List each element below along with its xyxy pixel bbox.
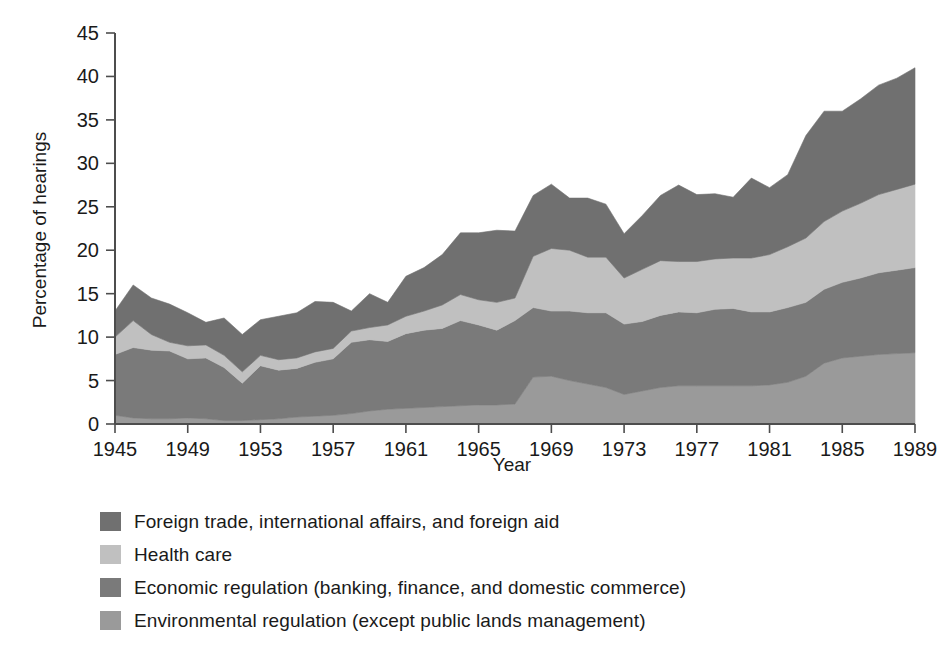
area-bands-group <box>115 68 915 424</box>
y-tick-label: 25 <box>77 196 99 218</box>
y-tick-label: 30 <box>77 152 99 174</box>
stacked-area-chart: 0510152025303540451945194919531957196119… <box>0 0 950 500</box>
x-tick-label: 1969 <box>529 438 574 460</box>
legend-item-label: Environmental regulation (except public … <box>134 610 646 632</box>
x-axis-title: Year <box>493 454 532 475</box>
legend-swatch-icon <box>100 611 121 630</box>
x-tick-label: 1953 <box>238 438 283 460</box>
y-tick-label: 40 <box>77 65 99 87</box>
y-tick-label: 20 <box>77 239 99 261</box>
x-tick-label: 1945 <box>93 438 138 460</box>
y-axis-title: Percentage of hearings <box>29 132 50 328</box>
chart-legend: Foreign trade, international affairs, an… <box>100 505 930 637</box>
legend-item-label: Economic regulation (banking, finance, a… <box>134 577 686 599</box>
x-tick-label: 1977 <box>675 438 720 460</box>
legend-item[interactable]: Economic regulation (banking, finance, a… <box>100 571 930 604</box>
legend-swatch-icon <box>100 512 121 531</box>
y-tick-label: 45 <box>77 22 99 44</box>
legend-item[interactable]: Foreign trade, international affairs, an… <box>100 505 930 538</box>
y-tick-label: 0 <box>88 413 99 435</box>
legend-swatch-icon <box>100 578 121 597</box>
x-tick-label: 1989 <box>893 438 938 460</box>
legend-item-label: Foreign trade, international affairs, an… <box>134 511 559 533</box>
x-tick-label: 1981 <box>747 438 792 460</box>
x-tick-label: 1985 <box>820 438 865 460</box>
legend-item[interactable]: Environmental regulation (except public … <box>100 604 930 637</box>
figure-root: 0510152025303540451945194919531957196119… <box>0 0 950 667</box>
x-tick-label: 1961 <box>384 438 429 460</box>
legend-swatch-icon <box>100 545 121 564</box>
y-tick-label: 35 <box>77 109 99 131</box>
y-tick-label: 5 <box>88 370 99 392</box>
x-tick-label: 1957 <box>311 438 356 460</box>
legend-item[interactable]: Health care <box>100 538 930 571</box>
chart-plot-area: 0510152025303540451945194919531957196119… <box>0 0 950 500</box>
legend-item-label: Health care <box>134 544 232 566</box>
x-tick-label: 1973 <box>602 438 647 460</box>
y-tick-label: 15 <box>77 283 99 305</box>
x-tick-label: 1949 <box>165 438 210 460</box>
y-tick-label: 10 <box>77 326 99 348</box>
